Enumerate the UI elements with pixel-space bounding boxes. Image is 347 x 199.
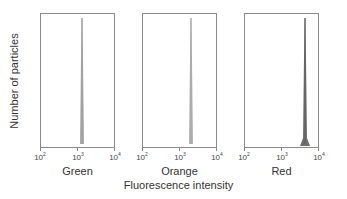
histogram-peak bbox=[40, 14, 115, 147]
histogram-peak bbox=[142, 14, 217, 147]
tick-label: 103 bbox=[72, 151, 84, 162]
x-axis-label: Fluorescence intensity bbox=[0, 179, 347, 191]
tick-label: 102 bbox=[136, 151, 148, 162]
y-axis-label: Number of particles bbox=[4, 13, 24, 148]
tick-label: 104 bbox=[109, 151, 121, 162]
channel-label: Orange bbox=[142, 165, 217, 177]
tick-label: 102 bbox=[238, 151, 250, 162]
tick-label: 103 bbox=[276, 151, 288, 162]
histogram-peak bbox=[244, 14, 319, 147]
tick-label: 103 bbox=[174, 151, 186, 162]
channel-label: Green bbox=[40, 165, 115, 177]
tick-label: 102 bbox=[34, 151, 46, 162]
panel-red: 102 103 104 Red bbox=[244, 13, 319, 148]
tick-label: 104 bbox=[211, 151, 223, 162]
tick-label: 104 bbox=[313, 151, 325, 162]
panel-orange: 102 103 104 Orange bbox=[142, 13, 217, 148]
panel-green: 102 103 104 Green bbox=[40, 13, 115, 148]
channel-label: Red bbox=[244, 165, 319, 177]
y-axis-label-text: Number of particles bbox=[8, 33, 20, 128]
